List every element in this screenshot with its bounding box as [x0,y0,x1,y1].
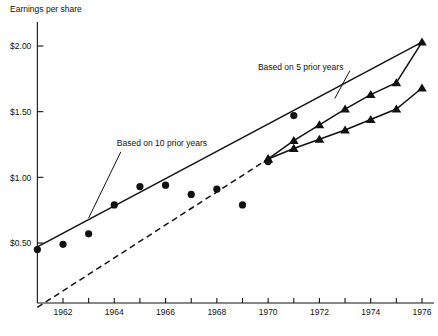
data-point-triangle [366,90,376,98]
data-point-circle [136,183,143,190]
data-point-triangle [340,104,350,112]
series-line [37,42,422,247]
data-point-circle [111,201,118,208]
chart-container: $0.50$1.00$1.50$2.00 1962196419661968197… [0,0,438,336]
chart-annotation-label: Based on 5 prior years [258,62,344,72]
chart-annotation-label: Based on 10 prior years [117,138,207,148]
chart-annotations: Based on 10 prior yearsBased on 5 prior … [89,62,350,218]
x-axis-tick-labels: 19621964196619681970197219741976 [54,307,432,317]
data-point-circle [34,246,41,253]
earnings-per-share-chart: $0.50$1.00$1.50$2.00 1962196419661968197… [0,0,438,336]
data-point-circle [85,230,92,237]
x-tick-label: 1968 [207,307,226,317]
x-tick-label: 1976 [413,307,432,317]
x-tick-label: 1972 [310,307,329,317]
data-point-triangle [289,136,299,144]
data-point-circle [290,112,297,119]
annotation-leader-line [335,71,350,99]
series-markers [34,37,427,253]
data-point-triangle [417,37,427,45]
annotation-leader-line [89,152,121,218]
x-tick-label: 1970 [259,307,278,317]
x-tick-label: 1974 [361,307,380,317]
y-tick-label: $1.00 [10,173,32,183]
y-tick-label: $0.50 [10,238,32,248]
x-axis-ticks [63,298,422,303]
y-tick-label: $2.00 [10,41,32,51]
data-point-triangle [315,120,325,128]
data-point-circle [59,241,66,248]
y-axis-tick-labels: $0.50$1.00$1.50$2.00 [10,41,32,248]
series-lines [37,42,422,307]
data-point-circle [188,191,195,198]
data-point-circle [213,186,220,193]
x-tick-label: 1962 [54,307,73,317]
data-point-triangle [417,83,427,91]
data-point-triangle [392,78,402,86]
chart-axes [37,22,434,303]
series-line [37,159,268,307]
data-point-circle [239,201,246,208]
x-tick-label: 1964 [105,307,124,317]
axis-tick-labels: $0.50$1.00$1.50$2.00 1962196419661968197… [10,41,432,317]
y-tick-label: $1.50 [10,107,32,117]
data-point-circle [162,182,169,189]
y-axis-title: Earnings per share [10,4,82,14]
y-axis-ticks [37,46,43,243]
x-tick-label: 1966 [156,307,175,317]
